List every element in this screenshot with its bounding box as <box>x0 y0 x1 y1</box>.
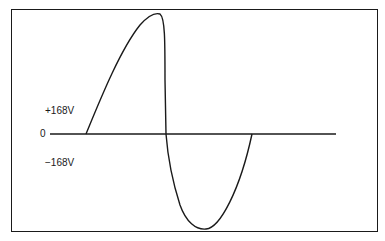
waveform-curve <box>86 13 252 229</box>
waveform-plot <box>0 0 385 241</box>
